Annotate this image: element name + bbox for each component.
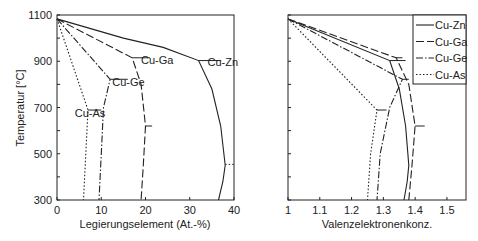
x-tick-label: 40 bbox=[228, 204, 240, 216]
series-annotation: Cu-As bbox=[75, 107, 106, 119]
x-tick-label: 1 bbox=[285, 204, 291, 216]
legend-label: Cu-As bbox=[435, 69, 466, 81]
left-x-axis-label: Legierungselement (At.-%) bbox=[80, 218, 211, 230]
series-annotation: Cu-Ga bbox=[141, 54, 174, 66]
x-tick-label: 20 bbox=[139, 204, 151, 216]
x-tick-label: 1.5 bbox=[439, 204, 454, 216]
legend-label: Cu-Zn bbox=[435, 19, 466, 31]
legend-label: Cu-Ga bbox=[435, 36, 468, 48]
x-tick-label: 0 bbox=[54, 204, 60, 216]
left-y-axis-label: Temperatur [°C] bbox=[14, 69, 26, 146]
y-tick-label: 900 bbox=[34, 55, 52, 67]
series-line-cu-ga bbox=[288, 19, 415, 200]
x-tick-label: 1.3 bbox=[376, 204, 391, 216]
series-line-cu-zn bbox=[288, 19, 409, 200]
chart-left-composition: 0102030403005007009001100Cu-ZnCu-GaCu-Ge… bbox=[28, 9, 240, 216]
x-tick-label: 1.1 bbox=[312, 204, 327, 216]
legend: Cu-ZnCu-GaCu-GeCu-As bbox=[413, 15, 468, 84]
y-tick-label: 300 bbox=[34, 194, 52, 206]
y-tick-label: 1100 bbox=[28, 9, 52, 21]
x-tick-label: 10 bbox=[95, 204, 107, 216]
legend-label: Cu-Ge bbox=[435, 52, 467, 64]
phase-diagram-figure: 0102030403005007009001100Cu-ZnCu-GaCu-Ge… bbox=[0, 0, 478, 241]
series-annotation: Cu-Ge bbox=[112, 76, 144, 88]
y-tick-label: 500 bbox=[34, 148, 52, 160]
series-line-cu-ge bbox=[288, 19, 402, 200]
y-tick-label: 700 bbox=[34, 102, 52, 114]
series-annotation: Cu-Zn bbox=[207, 56, 238, 68]
x-tick-label: 1.4 bbox=[407, 204, 422, 216]
x-tick-label: 1.2 bbox=[344, 204, 359, 216]
x-tick-label: 30 bbox=[184, 204, 196, 216]
chart-right-valence-electron-concentration: 11.11.21.31.41.5Cu-ZnCu-GaCu-GeCu-As bbox=[285, 15, 468, 216]
right-x-axis-label: Valenzelektronenkonz. bbox=[322, 218, 432, 230]
